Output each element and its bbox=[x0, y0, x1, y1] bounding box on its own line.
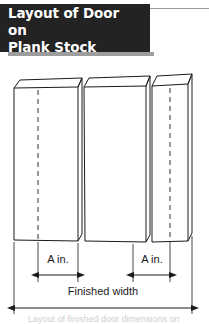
figure-caption-partial: Layout of finished door dimensions on bbox=[28, 314, 180, 324]
plank-layout-drawing: A in. A in. Finished width Layout of fin… bbox=[0, 56, 209, 324]
title-rule bbox=[146, 8, 209, 9]
plank-right bbox=[152, 74, 192, 242]
dim-finished-width-label: Finished width bbox=[68, 285, 138, 297]
dim-a-right: A in. bbox=[134, 253, 169, 275]
dim-a-right-label: A in. bbox=[141, 253, 162, 265]
plank-left bbox=[14, 78, 82, 241]
dim-finished-width: Finished width bbox=[15, 285, 191, 308]
page-title: Layout of Door on Plank Stock bbox=[8, 5, 142, 56]
figure-page: Layout of Door on Plank Stock bbox=[0, 0, 209, 324]
plank-middle bbox=[84, 76, 150, 242]
dim-a-left-label: A in. bbox=[47, 253, 68, 265]
title-banner: Layout of Door on Plank Stock bbox=[0, 4, 150, 52]
dim-a-left: A in. bbox=[39, 253, 77, 275]
